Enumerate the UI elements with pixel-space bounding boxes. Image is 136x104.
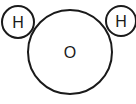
hydrogen-right-label: H bbox=[115, 13, 127, 30]
water-molecule-diagram: H O H bbox=[0, 0, 136, 104]
hydrogen-left-label: H bbox=[12, 14, 24, 31]
oxygen-label: O bbox=[64, 44, 76, 61]
